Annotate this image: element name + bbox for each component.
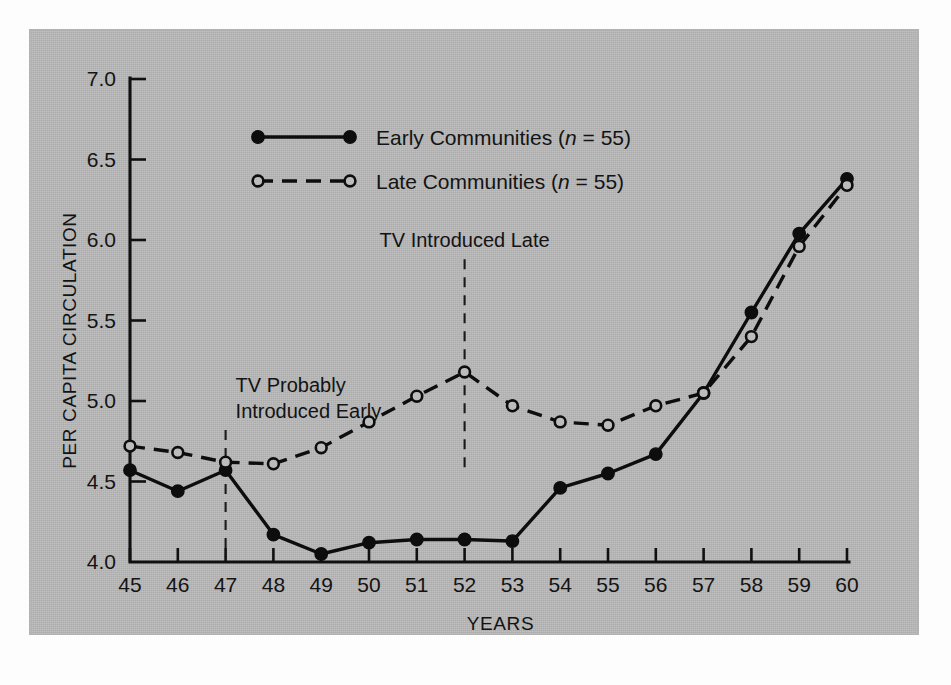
data-point-late xyxy=(650,400,661,411)
legend-marker-late xyxy=(253,176,264,187)
y-axis-title: PER CAPITA CIRCULATION xyxy=(59,212,80,468)
annotation-label-tv-late: TV Introduced Late xyxy=(380,229,550,251)
data-point-late xyxy=(125,441,136,452)
y-tick-label: 6.5 xyxy=(87,148,116,171)
data-point-late xyxy=(555,417,566,428)
data-point-late xyxy=(268,458,279,469)
x-tick-label: 46 xyxy=(166,573,189,596)
data-point-late xyxy=(603,420,614,431)
data-point-early xyxy=(650,448,662,460)
data-point-early xyxy=(554,482,566,494)
legend-label-early: Early Communities (n = 55) xyxy=(376,126,631,149)
data-point-late xyxy=(459,367,470,378)
x-tick-label: 54 xyxy=(549,573,573,596)
x-tick-label: 50 xyxy=(357,573,380,596)
data-point-early xyxy=(745,306,757,318)
y-tick-label: 4.0 xyxy=(87,550,116,573)
data-point-late xyxy=(746,331,757,342)
y-tick-label: 5.5 xyxy=(87,309,116,332)
legend-marker-early xyxy=(252,131,264,143)
data-point-early xyxy=(172,485,184,497)
x-tick-label: 57 xyxy=(692,573,715,596)
x-axis-title: YEARS xyxy=(467,613,534,634)
x-tick-label: 53 xyxy=(501,573,524,596)
x-tick-label: 58 xyxy=(740,573,763,596)
data-point-early xyxy=(793,227,805,239)
data-point-late xyxy=(842,180,853,191)
x-tick-label: 51 xyxy=(405,573,428,596)
x-tick-label: 59 xyxy=(788,573,811,596)
y-tick-label: 7.0 xyxy=(87,67,116,90)
legend-label-late: Late Communities (n = 55) xyxy=(376,170,624,193)
data-point-late xyxy=(316,442,327,453)
legend-marker-late xyxy=(345,176,356,187)
x-tick-label: 47 xyxy=(214,573,237,596)
data-point-early xyxy=(124,464,136,476)
legend-marker-early xyxy=(344,131,356,143)
chart-panel: 4.04.55.05.56.06.57.04546474849505152535… xyxy=(30,30,918,634)
data-point-early xyxy=(315,548,327,560)
data-point-early xyxy=(458,533,470,545)
x-tick-label: 60 xyxy=(835,573,858,596)
x-tick-label: 55 xyxy=(596,573,619,596)
data-point-early xyxy=(602,467,614,479)
x-tick-label: 45 xyxy=(118,573,141,596)
data-point-late xyxy=(698,388,709,399)
x-tick-label: 49 xyxy=(310,573,333,596)
x-tick-label: 52 xyxy=(453,573,476,596)
data-point-late xyxy=(220,457,231,468)
y-tick-label: 4.5 xyxy=(87,470,116,493)
data-point-late xyxy=(507,400,518,411)
x-tick-label: 48 xyxy=(262,573,285,596)
series-line-late xyxy=(130,185,847,464)
figure-root: 4.04.55.05.56.06.57.04546474849505152535… xyxy=(0,0,951,685)
data-point-early xyxy=(363,537,375,549)
y-tick-label: 6.0 xyxy=(87,228,116,251)
y-tick-label: 5.0 xyxy=(87,389,116,412)
line-chart: 4.04.55.05.56.06.57.04546474849505152535… xyxy=(30,30,918,634)
annotation-label-tv-early: TV Probably xyxy=(236,374,346,396)
data-point-late xyxy=(794,241,805,252)
data-point-late xyxy=(411,391,422,402)
data-point-early xyxy=(506,535,518,547)
data-point-late xyxy=(364,417,375,428)
data-point-early xyxy=(267,528,279,540)
data-point-late xyxy=(172,447,183,458)
annotation-label-tv-early: Introduced Early xyxy=(236,400,382,422)
x-tick-label: 56 xyxy=(644,573,667,596)
data-point-early xyxy=(411,533,423,545)
